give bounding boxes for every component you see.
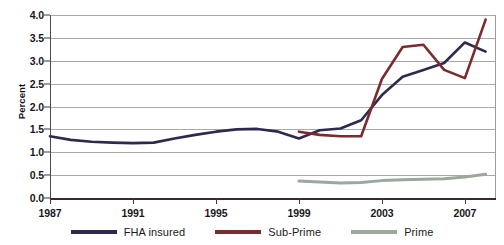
x-axis-tick-label: 1999: [287, 207, 310, 219]
y-axis-tick-label: 0.5: [30, 169, 44, 181]
x-axis-tick: [50, 198, 51, 204]
chart-legend: FHA insuredSub-PrimePrime: [0, 222, 504, 242]
y-axis-tick-label: 1.0: [30, 146, 44, 158]
x-axis-tick: [465, 198, 466, 204]
x-axis-tick: [299, 198, 300, 204]
y-axis-tick-label: 3.0: [30, 55, 44, 67]
y-axis-tick-labels: 0.00.51.01.52.02.53.03.54.0: [12, 15, 44, 198]
chart-figure: Percent 0.00.51.01.52.02.53.03.54.0 1987…: [0, 0, 504, 245]
x-axis-tick-label: 2003: [370, 207, 393, 219]
legend-label: Sub-Prime: [268, 226, 321, 238]
series-lines: [50, 15, 496, 198]
series-line-sub-prime: [299, 20, 486, 137]
legend-swatch-icon: [71, 230, 117, 233]
y-axis-tick-label: 4.0: [30, 9, 44, 21]
legend-swatch-icon: [351, 230, 397, 233]
legend-item-prime[interactable]: Prime: [351, 226, 433, 238]
x-axis-tick-label: 1987: [39, 207, 62, 219]
x-axis-tick: [216, 198, 217, 204]
x-axis-tick-label: 1991: [121, 207, 144, 219]
series-line-fha-insured: [50, 42, 486, 143]
x-axis-tick-label: 1995: [204, 207, 227, 219]
plot-area: [50, 15, 496, 198]
series-line-prime: [299, 174, 486, 183]
y-axis-tick-label: 2.0: [30, 101, 44, 113]
legend-label: Prime: [404, 226, 433, 238]
y-axis-tick-label: 2.5: [30, 78, 44, 90]
y-axis-tick-label: 3.5: [30, 32, 44, 44]
y-axis-tick-label: 0.0: [30, 192, 44, 204]
x-axis-tick: [382, 198, 383, 204]
x-axis-tick-label: 2007: [453, 207, 476, 219]
y-axis-tick-label: 1.5: [30, 123, 44, 135]
x-axis: 198719911995199920032007: [50, 198, 496, 224]
x-axis-tick: [133, 198, 134, 204]
legend-swatch-icon: [215, 230, 261, 233]
legend-item-fha-insured[interactable]: FHA insured: [71, 226, 186, 238]
legend-item-sub-prime[interactable]: Sub-Prime: [215, 226, 321, 238]
legend-label: FHA insured: [124, 226, 186, 238]
